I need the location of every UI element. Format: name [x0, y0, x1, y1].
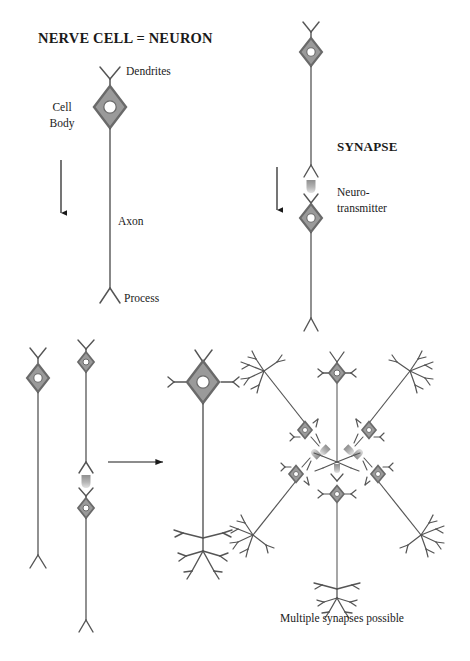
diamond-cell-body-icon: [298, 422, 312, 439]
converging-neuron-lower-right: [352, 448, 444, 557]
panel-synapse: [277, 22, 322, 331]
diamond-cell-body-icon: [78, 498, 94, 518]
panel-network: [230, 351, 444, 618]
label-cell-body-line1: Cell: [40, 101, 84, 114]
label-axon: Axon: [118, 215, 144, 228]
label-dendrites: Dendrites: [126, 65, 171, 78]
label-neurotransmitter-line1: Neuro-: [337, 186, 370, 199]
label-synapse-title: SYNAPSE: [337, 140, 398, 155]
source-neuron-left: [27, 348, 49, 568]
converging-neuron-upper-right: [343, 351, 433, 456]
dendrite-fork-icon: [79, 488, 93, 496]
presynaptic-neuron: [300, 22, 322, 177]
dendritic-arbor-icon: [230, 515, 274, 557]
axon-terminal-icon: [30, 555, 46, 568]
axon-terminal-icon: [100, 288, 120, 303]
axon-line-icon: [369, 371, 410, 423]
dendritic-arbor-icon: [389, 351, 433, 393]
axon-terminal-icon: [302, 458, 311, 470]
axon-terminal-icon: [363, 458, 372, 470]
caption-multiple-synapses: Multiple synapses possible: [247, 612, 437, 625]
converging-neuron-upper-left: [241, 351, 331, 456]
page-title: NERVE CELL = NEURON: [38, 30, 213, 46]
dendrite-fork-icon: [304, 194, 318, 203]
dendritic-arbor-icon: [174, 530, 232, 579]
diamond-cell-body-icon: [330, 486, 344, 503]
result-neuron: [168, 350, 239, 579]
axon-line-icon: [264, 371, 305, 423]
diamond-cell-body-icon: [300, 204, 322, 232]
figure-canvas: NERVE CELL = NEURON Dendrites Cell Body …: [0, 0, 470, 661]
converging-neuron-lower-left: [230, 448, 322, 557]
neurotransmitter-blob-icon: [307, 180, 316, 193]
dendritic-arbor-icon: [400, 515, 444, 557]
dendrite-fork-icon: [30, 348, 46, 358]
axon-terminal-icon: [311, 434, 320, 446]
hub-neurotransmitter-center: [334, 464, 340, 473]
diamond-cell-body-icon: [78, 352, 94, 372]
axon-terminal-icon: [79, 620, 93, 632]
axon-terminal-icon: [79, 462, 93, 473]
diamond-cell-body-icon: [289, 466, 303, 483]
diamond-cell-body-icon: [371, 466, 385, 483]
label-neurotransmitter-line2: transmitter: [337, 202, 387, 215]
dendrite-fork-icon: [303, 22, 319, 32]
dendrite-fork-icon: [100, 67, 120, 79]
dendritic-arbor-icon: [241, 351, 285, 393]
diamond-cell-body-icon: [94, 86, 126, 128]
diamond-cell-body-icon: [362, 422, 376, 439]
axon-terminal-icon: [354, 434, 363, 446]
dendrite-fork-icon: [78, 340, 94, 349]
postsynaptic-neuron: [300, 194, 322, 331]
axon-line-icon: [253, 481, 296, 535]
axon-line-icon: [378, 481, 421, 535]
dendrite-fork-icon: [331, 474, 343, 481]
source-neuron-right: [78, 340, 94, 632]
network-central-axis: [314, 352, 360, 618]
diamond-cell-body-icon: [27, 364, 49, 392]
label-process: Process: [124, 292, 159, 305]
axon-terminal-icon: [304, 318, 318, 331]
axon-terminal-icon: [304, 165, 318, 177]
neuron-diagram: [0, 0, 470, 661]
diamond-cell-body-icon: [329, 363, 345, 383]
diamond-cell-body-icon: [187, 361, 219, 403]
panel-convergence: [27, 340, 239, 632]
diamond-cell-body-icon: [300, 38, 322, 66]
neurotransmitter-blob-icon: [82, 475, 91, 488]
label-cell-body-line2: Body: [40, 117, 84, 130]
